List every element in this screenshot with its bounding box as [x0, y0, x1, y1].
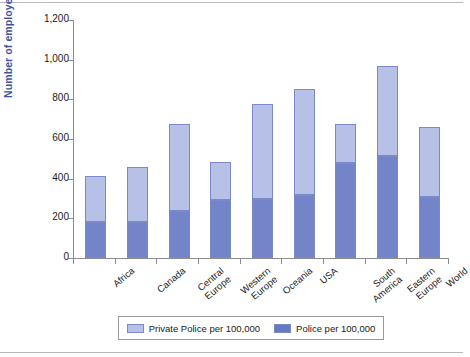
- y-tick-label: 1,000: [44, 53, 69, 64]
- x-axis-label-eastern-europe: EasternEurope: [404, 265, 443, 303]
- x-axis-label-africa: Africa: [111, 265, 137, 289]
- y-tick-label: 600: [52, 132, 69, 143]
- bar-segment-private-police: [419, 127, 440, 196]
- legend-entry: Police per 100,000: [274, 323, 375, 334]
- legend-swatch-icon: [274, 324, 291, 333]
- bar-segment-private-police: [294, 89, 315, 194]
- x-tick-mark: [406, 259, 407, 264]
- bar-segment-police: [419, 197, 440, 258]
- x-tick-mark: [156, 259, 157, 264]
- y-tick: 800: [73, 99, 74, 100]
- x-axis-label-canada: Canada: [154, 265, 187, 295]
- x-tick-mark: [323, 259, 324, 264]
- bar-segment-police: [335, 163, 356, 258]
- y-tick: 200: [73, 218, 74, 219]
- bar-segment-police: [210, 200, 231, 258]
- bar-segment-private-police: [169, 124, 190, 211]
- x-tick-mark: [198, 259, 199, 264]
- y-tick-label: 800: [52, 92, 69, 103]
- x-axis-label-central-europe: CentralEurope: [195, 265, 233, 302]
- page-edge-line-top: [0, 2, 463, 3]
- bar-eastern-europe: [377, 66, 398, 258]
- y-tick: 1,000: [73, 60, 74, 61]
- bar-segment-police: [127, 222, 148, 258]
- bar-segment-private-police: [377, 66, 398, 156]
- bar-segment-private-police: [85, 176, 106, 221]
- plot-area: 02004006008001,0001,200: [73, 20, 448, 258]
- legend-entry: Private Police per 100,000: [127, 323, 260, 334]
- bar-segment-private-police: [127, 167, 148, 222]
- x-axis-label-world: World: [444, 265, 470, 289]
- y-tick-label: 400: [52, 172, 69, 183]
- x-tick-mark: [365, 259, 366, 264]
- y-axis-title: Number of employees: [2, 0, 14, 98]
- bar-western-europe: [210, 162, 231, 258]
- bar-africa: [85, 176, 106, 258]
- x-axis-label-south-america: SouthAmerica: [363, 265, 404, 304]
- bar-segment-private-police: [335, 124, 356, 163]
- y-tick: 600: [73, 139, 74, 140]
- bar-segment-police: [85, 222, 106, 258]
- bar-segment-private-police: [210, 162, 231, 200]
- x-tick-mark: [448, 259, 449, 264]
- page-edge-line-bottom: [0, 352, 463, 353]
- y-tick-label: 1,200: [44, 13, 69, 24]
- x-tick-mark: [240, 259, 241, 264]
- x-tick-mark: [115, 259, 116, 264]
- y-tick: 400: [73, 179, 74, 180]
- chart-legend: Private Police per 100,000Police per 100…: [118, 316, 384, 340]
- bar-central-europe: [169, 124, 190, 258]
- legend-swatch-icon: [127, 324, 144, 333]
- bar-oceania: [252, 104, 273, 258]
- bar-south-america: [335, 124, 356, 258]
- x-axis-label-usa: USA: [318, 265, 340, 286]
- x-axis-label-oceania: Oceania: [280, 265, 314, 296]
- x-axis-label-western-europe: WesternEurope: [238, 265, 279, 304]
- bar-world: [419, 127, 440, 258]
- legend-label: Police per 100,000: [296, 323, 375, 334]
- bar-segment-police: [169, 211, 190, 258]
- bar-canada: [127, 167, 148, 258]
- bar-segment-police: [252, 199, 273, 258]
- x-tick-mark: [281, 259, 282, 264]
- y-tick-label: 0: [63, 251, 69, 262]
- bar-segment-private-police: [252, 104, 273, 199]
- bar-usa: [294, 89, 315, 258]
- y-tick: 1,200: [73, 20, 74, 21]
- x-tick-mark: [73, 259, 74, 264]
- bar-segment-police: [377, 156, 398, 258]
- bar-segment-police: [294, 195, 315, 258]
- y-tick-label: 200: [52, 211, 69, 222]
- legend-label: Private Police per 100,000: [149, 323, 260, 334]
- x-axis-line: [73, 258, 449, 259]
